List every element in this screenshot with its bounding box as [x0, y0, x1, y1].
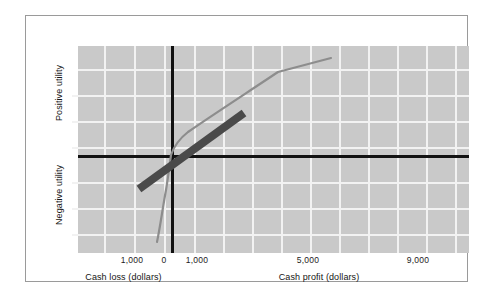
x-tick-label-profit-1000: 1,000	[177, 255, 217, 265]
x-axis-title-cash-loss: Cash loss (dollars)	[51, 272, 196, 282]
y-axis-label-positive: Positive utility	[54, 65, 64, 121]
plot-wrapper	[78, 46, 469, 253]
x-tick-label-zero: 0	[150, 255, 178, 265]
tangent-line-segment	[139, 113, 244, 189]
curve-layer	[78, 46, 469, 253]
x-tick-label-loss-1000: 1,000	[112, 255, 152, 265]
x-tick-label-profit-5000: 5,000	[288, 255, 328, 265]
utility-function-figure: Positive utility Negative utility 1,000 …	[0, 0, 483, 298]
y-axis-label-negative: Negative utility	[54, 165, 64, 225]
figure-frame: Positive utility Negative utility 1,000 …	[25, 15, 468, 282]
utility-curve-path	[157, 58, 331, 242]
x-axis-title-cash-profit: Cash profit (dollars)	[239, 272, 399, 282]
x-tick-label-profit-9000: 9,000	[398, 255, 438, 265]
plot-area	[78, 46, 469, 253]
